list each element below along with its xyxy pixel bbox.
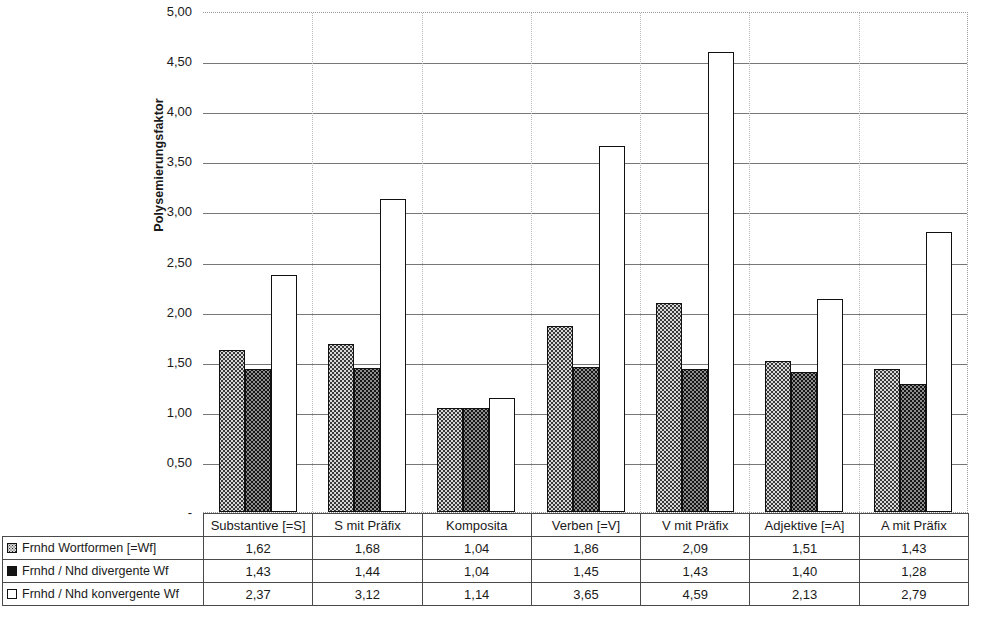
bar (219, 350, 245, 512)
table-value-cell: 1,04 (422, 537, 531, 560)
table-corner-cell (3, 514, 204, 537)
table-value-cell: 4,59 (641, 583, 750, 606)
y-axis-tick-label: 0,50 (136, 456, 192, 469)
bar (926, 232, 952, 512)
bar (573, 367, 599, 512)
table-value-cell: 1,04 (422, 560, 531, 583)
table-column-header: Adjektive [=A] (750, 514, 859, 537)
y-axis-tick-label: 3,00 (136, 205, 192, 218)
table-header-row: Substantive [=S]S mit PräfixKompositaVer… (3, 514, 969, 537)
table-column-header: A mit Präfix (859, 514, 968, 537)
table-column-header: S mit Präfix (313, 514, 422, 537)
table-value-cell: 2,37 (204, 583, 313, 606)
y-axis-tick-label: 4,00 (136, 105, 192, 118)
table-column-header: V mit Präfix (641, 514, 750, 537)
y-axis-tick-label: 3,50 (136, 155, 192, 168)
table-value-cell: 1,28 (859, 560, 968, 583)
bar (271, 275, 297, 512)
table-value-cell: 1,43 (204, 560, 313, 583)
gridline (203, 213, 967, 214)
data-table: Substantive [=S]S mit PräfixKompositaVer… (2, 513, 969, 606)
table-value-cell: 1,43 (641, 560, 750, 583)
gridline (203, 364, 967, 365)
bar (437, 408, 463, 512)
bar (245, 369, 271, 512)
table-value-cell: 1,86 (531, 537, 640, 560)
bar (489, 398, 515, 512)
bar (765, 361, 791, 512)
table-value-cell: 2,13 (750, 583, 859, 606)
table-column-header: Substantive [=S] (204, 514, 313, 537)
bar (656, 303, 682, 512)
bar (708, 52, 734, 512)
polysemy-bar-chart-figure: Polysemierungsfaktor 5,004,504,003,503,0… (0, 0, 990, 632)
table-row: Frnhd / Nhd divergente Wf1,431,441,041,4… (3, 560, 969, 583)
gridline (203, 163, 967, 164)
gridline (203, 264, 967, 265)
plot-area (203, 12, 968, 513)
bar (791, 372, 817, 512)
y-axis-tick-label: 2,50 (136, 256, 192, 269)
bar (817, 299, 843, 512)
white-square-icon (7, 589, 17, 599)
table-value-cell: 1,44 (313, 560, 422, 583)
bar (599, 146, 625, 512)
y-axis-tick-label: 1,00 (136, 406, 192, 419)
legend-label: Frnhd / Nhd konvergente Wf (22, 587, 179, 601)
table-column-header: Verben [=V] (531, 514, 640, 537)
bar (354, 368, 380, 512)
table-row: Frnhd Wortformen [=Wf]1,621,681,041,862,… (3, 537, 969, 560)
table-value-cell: 3,65 (531, 583, 640, 606)
bar (900, 384, 926, 512)
table-value-cell: 3,12 (313, 583, 422, 606)
legend-label: Frnhd Wortformen [=Wf] (22, 541, 156, 555)
table-value-cell: 2,79 (859, 583, 968, 606)
gridline (203, 63, 967, 64)
legend-label: Frnhd / Nhd divergente Wf (22, 564, 169, 578)
bar (874, 369, 900, 512)
category-separator (422, 13, 423, 512)
bar (547, 326, 573, 512)
y-axis-tick-label: 1,50 (136, 356, 192, 369)
y-axis-tick-label: 4,50 (136, 55, 192, 68)
dark-filled-square-icon (7, 566, 17, 576)
legend-cell: Frnhd Wortformen [=Wf] (3, 537, 204, 560)
table-value-cell: 1,40 (750, 560, 859, 583)
category-separator (312, 13, 313, 512)
gridline (203, 113, 967, 114)
table-value-cell: 1,68 (313, 537, 422, 560)
bar (380, 199, 406, 512)
category-separator (531, 13, 532, 512)
bar (328, 344, 354, 512)
gridline (203, 314, 967, 315)
table-body: Frnhd Wortformen [=Wf]1,621,681,041,862,… (3, 537, 969, 606)
light-dotted-square-icon (7, 543, 17, 553)
table-value-cell: 1,14 (422, 583, 531, 606)
category-separator (749, 13, 750, 512)
category-separator (859, 13, 860, 512)
table-value-cell: 1,43 (859, 537, 968, 560)
table-row: Frnhd / Nhd konvergente Wf2,373,121,143,… (3, 583, 969, 606)
category-separator (640, 13, 641, 512)
table-column-header: Komposita (422, 514, 531, 537)
table-value-cell: 1,51 (750, 537, 859, 560)
bar (463, 408, 489, 512)
y-axis-tick-label: 2,00 (136, 306, 192, 319)
y-axis-tick-label: 5,00 (136, 5, 192, 18)
table-value-cell: 1,62 (204, 537, 313, 560)
legend-cell: Frnhd / Nhd divergente Wf (3, 560, 204, 583)
bar (682, 369, 708, 512)
table-value-cell: 2,09 (641, 537, 750, 560)
table-value-cell: 1,45 (531, 560, 640, 583)
legend-cell: Frnhd / Nhd konvergente Wf (3, 583, 204, 606)
